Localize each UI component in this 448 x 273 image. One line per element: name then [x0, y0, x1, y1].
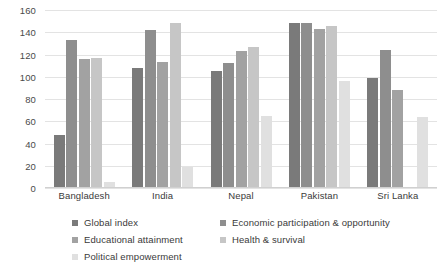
bar[interactable] [211, 71, 222, 188]
x-axis-category-label: Sri Lanka [359, 190, 437, 201]
legend-label: Global index [84, 217, 138, 228]
legend-swatch-icon [72, 254, 78, 260]
bar[interactable] [66, 40, 77, 188]
x-axis-line [45, 187, 437, 188]
y-axis-tick-labels: 020406080100120140160 [0, 10, 40, 188]
y-axis-tick: 140 [20, 27, 36, 38]
bar[interactable] [79, 59, 90, 188]
legend-swatch-icon [72, 220, 78, 226]
legend-item[interactable]: Economic participation & opportunity [220, 217, 432, 228]
legend-item[interactable]: Global index [72, 217, 220, 228]
legend-label: Economic participation & opportunity [232, 217, 390, 228]
y-axis-tick: 40 [25, 138, 36, 149]
bar[interactable] [54, 135, 65, 188]
bar[interactable] [157, 62, 168, 188]
x-axis-category-label: Nepal [202, 190, 280, 201]
legend-label: Health & survival [232, 234, 305, 245]
bar[interactable] [289, 23, 300, 188]
bar[interactable] [223, 63, 234, 188]
bar[interactable] [182, 167, 193, 188]
y-axis-tick: 20 [25, 160, 36, 171]
bar[interactable] [236, 51, 247, 188]
bar[interactable] [261, 116, 272, 188]
bar[interactable] [91, 58, 102, 188]
legend-item[interactable]: Educational attainment [72, 234, 220, 245]
legend-label: Educational attainment [84, 234, 183, 245]
bar[interactable] [314, 29, 325, 188]
bar-group [123, 10, 201, 188]
bar[interactable] [301, 23, 312, 188]
bar-group [359, 10, 437, 188]
y-axis-tick: 160 [20, 5, 36, 16]
bar[interactable] [145, 30, 156, 188]
bar[interactable] [417, 117, 428, 188]
legend-swatch-icon [220, 220, 226, 226]
y-axis-tick: 0 [31, 183, 36, 194]
legend-item[interactable]: Health & survival [220, 234, 432, 245]
plot-area [45, 10, 437, 188]
y-axis-tick: 80 [25, 94, 36, 105]
bar[interactable] [380, 50, 391, 188]
x-axis-category-label: Bangladesh [45, 190, 123, 201]
bar[interactable] [326, 26, 337, 188]
x-axis-category-label: Pakistan [280, 190, 358, 201]
gridline [45, 188, 437, 189]
legend-swatch-icon [220, 237, 226, 243]
bar-groups [45, 10, 437, 188]
bar-group [45, 10, 123, 188]
bar[interactable] [248, 47, 259, 188]
bar[interactable] [132, 68, 143, 188]
y-axis-tick: 100 [20, 71, 36, 82]
y-axis-tick: 120 [20, 49, 36, 60]
legend-swatch-icon [72, 237, 78, 243]
bar-group [280, 10, 358, 188]
bar[interactable] [392, 90, 403, 188]
grouped-bar-chart: 020406080100120140160 BangladeshIndiaNep… [0, 0, 448, 273]
bar[interactable] [339, 81, 350, 188]
bar[interactable] [170, 23, 181, 188]
chart-legend: Global indexEconomic participation & opp… [72, 214, 432, 265]
legend-item[interactable]: Political empowerment [72, 251, 220, 262]
bar-group [202, 10, 280, 188]
x-axis-category-labels: BangladeshIndiaNepalPakistanSri Lanka [45, 190, 437, 201]
legend-label: Political empowerment [84, 251, 182, 262]
y-axis-tick: 60 [25, 116, 36, 127]
x-axis-category-label: India [123, 190, 201, 201]
bar[interactable] [367, 78, 378, 188]
